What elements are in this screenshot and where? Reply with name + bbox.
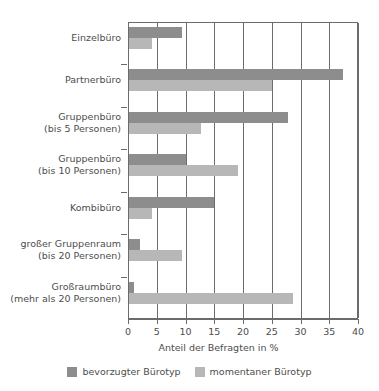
legend-item-current: momentaner Bürotyp [195,366,312,377]
x-tick-label-30: 30 [286,326,316,337]
chart-legend: bevorzugter Bürotyp momentaner Bürotyp [0,366,379,377]
y-axis-label-0: Einzelbüro [0,32,121,44]
y-axis-label-line: (bis 5 Personen) [0,123,121,135]
bar-current-0 [129,38,152,49]
gridline-x-25 [272,23,273,318]
y-tick-1 [121,107,127,108]
y-tick-5 [121,277,127,278]
y-axis-label-6: Großraumbüro(mehr als 20 Personen) [0,281,121,305]
y-axis-label-1: Partnerbüro [0,74,121,86]
y-axis-label-line: Großraumbüro [0,281,121,293]
y-axis-label-2: Gruppenbüro(bis 5 Personen) [0,111,121,135]
legend-label-current: momentaner Bürotyp [210,366,312,377]
y-axis-label-line: (bis 10 Personen) [0,165,121,177]
y-tick-4 [121,234,127,235]
gridline-x-30 [301,23,302,318]
bar-preferred-5 [129,239,140,250]
bar-preferred-6 [129,282,134,293]
x-tick-label-40: 40 [343,326,373,337]
x-tick-label-10: 10 [171,326,201,337]
x-axis-line [128,319,359,320]
gridline-x-40 [358,23,359,318]
y-axis-label-5: großer Gruppenraum(bis 20 Personen) [0,238,121,262]
bar-preferred-3 [129,154,186,165]
gridline-x-35 [329,23,330,318]
y-axis-label-line: Partnerbüro [0,74,121,86]
x-axis-title: Anteil der Befragten in % [0,342,379,353]
bar-current-1 [129,80,272,91]
y-tick-2 [121,149,127,150]
x-tick-label-25: 25 [257,326,287,337]
legend-swatch-icon-current [195,367,205,377]
bar-current-5 [129,250,182,261]
y-axis-label-line: Gruppenbüro [0,153,121,165]
legend-swatch-icon-preferred [67,367,77,377]
bar-chart: 0510152025303540EinzelbüroPartnerbüroGru… [0,0,379,391]
legend-item-preferred: bevorzugter Bürotyp [67,366,180,377]
y-tick-3 [121,192,127,193]
y-axis-label-4: Kombibüro [0,202,121,214]
y-axis-label-line: (mehr als 20 Personen) [0,293,121,305]
y-axis-label-line: Einzelbüro [0,32,121,44]
bar-preferred-4 [129,197,214,208]
x-tick-label-15: 15 [199,326,229,337]
x-tick-label-0: 0 [113,326,143,337]
x-tick-label-5: 5 [142,326,172,337]
bar-current-4 [129,208,152,219]
x-tick-label-20: 20 [228,326,258,337]
bar-preferred-2 [129,112,288,123]
x-axis-title-text: Anteil der Befragten in % [159,342,279,353]
y-axis-label-3: Gruppenbüro(bis 10 Personen) [0,153,121,177]
bar-current-2 [129,123,201,134]
bar-preferred-0 [129,27,182,38]
gridline-x-20 [243,23,244,318]
y-axis-label-line: Gruppenbüro [0,111,121,123]
bar-current-3 [129,165,238,176]
y-axis-label-line: (bis 20 Personen) [0,250,121,262]
y-axis-label-line: großer Gruppenraum [0,238,121,250]
x-tick-label-35: 35 [314,326,344,337]
y-axis-label-line: Kombibüro [0,202,121,214]
bar-current-6 [129,293,293,304]
legend-label-preferred: bevorzugter Bürotyp [82,366,180,377]
y-tick-0 [121,64,127,65]
bar-preferred-1 [129,69,343,80]
